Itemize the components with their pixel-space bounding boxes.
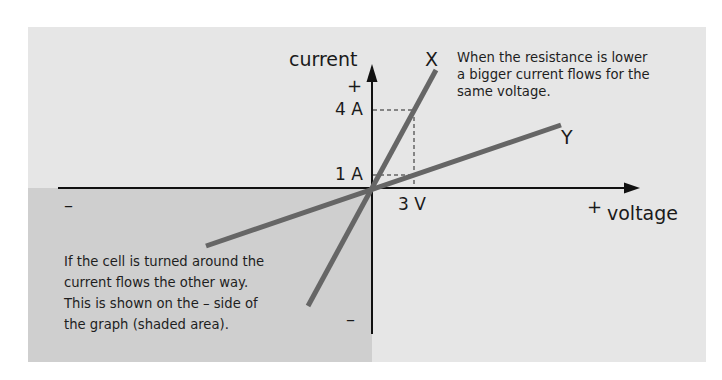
tick-3v: 3 V <box>398 196 426 213</box>
annotation-line: When the resistance is lower <box>457 49 650 66</box>
line-y <box>206 125 561 246</box>
annotation-line: If the cell is turned around the <box>64 251 264 272</box>
line-x-label: X <box>425 50 438 69</box>
annotation-line: same voltage. <box>457 83 650 100</box>
line-y-label: Y <box>561 128 573 147</box>
x-axis-arrow-icon <box>624 183 640 194</box>
x-positive-sign: + <box>587 198 602 216</box>
annotation-lower-resistance: When the resistance is lower a bigger cu… <box>457 49 650 100</box>
y-axis-arrow-icon <box>367 64 378 82</box>
tick-4a: 4 A <box>335 101 363 118</box>
x-axis-label: voltage <box>607 204 678 223</box>
y-axis-label: current <box>289 50 358 69</box>
tick-1a: 1 A <box>335 166 363 183</box>
annotation-line: the graph (shaded area). <box>64 314 264 335</box>
annotation-line: This is shown on the – side of <box>64 293 264 314</box>
x-negative-sign: – <box>64 196 73 214</box>
y-positive-sign: + <box>347 77 362 95</box>
y-negative-sign: – <box>346 310 355 328</box>
annotation-line: a bigger current flows for the <box>457 66 650 83</box>
annotation-line: current flows the other way. <box>64 272 264 293</box>
annotation-reversed-cell: If the cell is turned around the current… <box>64 251 264 335</box>
